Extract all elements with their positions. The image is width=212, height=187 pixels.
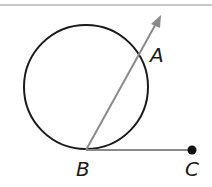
point-c <box>188 146 197 155</box>
geometry-diagram: A B C <box>0 0 212 187</box>
label-b: B <box>76 157 90 181</box>
label-a: A <box>148 43 164 67</box>
arrowhead-icon <box>151 15 161 28</box>
label-c: C <box>185 157 199 181</box>
circle <box>24 25 148 149</box>
